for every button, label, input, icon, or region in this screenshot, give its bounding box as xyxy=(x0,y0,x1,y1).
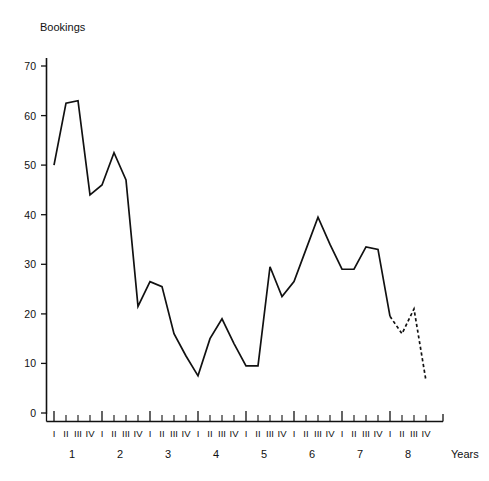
y-tick-label-0: 0 xyxy=(30,407,36,419)
quarter-label-3-III: III xyxy=(170,428,178,439)
quarter-label-8-IV: IV xyxy=(422,428,432,439)
quarter-label-4-IV: IV xyxy=(230,428,240,439)
quarter-label-8-II: II xyxy=(399,428,404,439)
year-label-5: 5 xyxy=(261,448,267,460)
quarter-label-3-II: II xyxy=(159,428,164,439)
quarter-label-5-III: III xyxy=(266,428,274,439)
y-tick-label-50: 50 xyxy=(24,159,36,171)
quarter-label-7-III: III xyxy=(362,428,370,439)
quarter-label-2-II: II xyxy=(111,428,116,439)
quarter-label-8-I: I xyxy=(389,428,392,439)
y-tick-label-60: 60 xyxy=(24,110,36,122)
quarter-label-2-III: III xyxy=(122,428,130,439)
quarter-label-7-IV: IV xyxy=(374,428,384,439)
y-tick-label-70: 70 xyxy=(24,60,36,72)
year-label-6: 6 xyxy=(309,448,315,460)
x-axis-quarter-labels: IIIIIIIVIIIIIIIVIIIIIIIVIIIIIIIVIIIIIIIV… xyxy=(53,428,431,439)
quarter-label-2-IV: IV xyxy=(134,428,144,439)
quarter-label-3-I: I xyxy=(149,428,152,439)
quarter-label-4-II: II xyxy=(207,428,212,439)
bookings-forecast-line xyxy=(390,309,426,381)
quarter-label-6-IV: IV xyxy=(326,428,336,439)
quarter-label-7-I: I xyxy=(341,428,344,439)
quarter-label-1-I: I xyxy=(53,428,56,439)
bookings-actual-line xyxy=(54,101,390,376)
chart-canvas: Bookings 70 60 50 40 30 20 10 0 xyxy=(0,0,489,481)
quarter-label-5-I: I xyxy=(245,428,248,439)
quarter-label-5-IV: IV xyxy=(278,428,288,439)
x-axis-ticks xyxy=(54,411,426,422)
quarter-label-5-II: II xyxy=(255,428,260,439)
quarter-label-6-I: I xyxy=(293,428,296,439)
quarter-label-4-III: III xyxy=(218,428,226,439)
quarter-label-1-II: II xyxy=(63,428,68,439)
year-label-3: 3 xyxy=(165,448,171,460)
quarter-label-6-II: II xyxy=(303,428,308,439)
y-tick-label-40: 40 xyxy=(24,209,36,221)
quarter-label-1-III: III xyxy=(74,428,82,439)
quarter-label-4-I: I xyxy=(197,428,200,439)
year-label-4: 4 xyxy=(213,448,219,460)
y-tick-label-30: 30 xyxy=(24,258,36,270)
x-axis-title: Years xyxy=(451,448,479,460)
y-axis-ticks xyxy=(41,66,47,413)
bookings-line-chart: Bookings 70 60 50 40 30 20 10 0 xyxy=(0,0,489,481)
y-tick-label-20: 20 xyxy=(24,308,36,320)
quarter-label-2-I: I xyxy=(101,428,104,439)
y-tick-label-10: 10 xyxy=(24,357,36,369)
quarter-label-1-IV: IV xyxy=(86,428,96,439)
quarter-label-3-IV: IV xyxy=(182,428,192,439)
y-axis-labels: 70 60 50 40 30 20 10 0 xyxy=(24,60,36,419)
quarter-label-8-III: III xyxy=(410,428,418,439)
year-label-2: 2 xyxy=(117,448,123,460)
quarter-label-6-III: III xyxy=(314,428,322,439)
year-label-8: 8 xyxy=(405,448,411,460)
year-label-1: 1 xyxy=(69,448,75,460)
x-axis-year-labels: 12345678 xyxy=(69,448,411,460)
quarter-label-7-II: II xyxy=(351,428,356,439)
year-label-7: 7 xyxy=(357,448,363,460)
y-axis-title: Bookings xyxy=(40,21,86,33)
